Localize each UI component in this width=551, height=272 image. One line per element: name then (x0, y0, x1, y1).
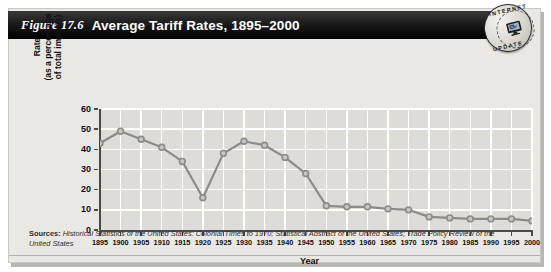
figure-container: Figure 17.6 Average Tariff Rates, 1895–2… (0, 0, 551, 272)
y-axis-label-line-3: of total imports) (53, 0, 64, 107)
data-point-marker (509, 216, 515, 222)
y-tick-mark (94, 209, 98, 211)
y-axis-label-line-1: Rate (32, 0, 43, 107)
sources-prefix: Sources: (29, 229, 61, 238)
data-point-marker (221, 150, 227, 156)
y-axis-label: Rate (as a percentage of total imports) (32, 0, 54, 107)
chart-area: Rate (as a percentage of total imports) … (8, 45, 541, 223)
y-tick-label: 20 (65, 184, 91, 194)
y-tick-label: 30 (65, 164, 91, 174)
y-tick-label: 50 (65, 124, 91, 134)
data-point-marker (529, 218, 532, 224)
y-tick-mark (94, 169, 98, 171)
data-point-marker (282, 155, 288, 161)
sources-text: Historical Statistics of the United Stat… (29, 229, 494, 248)
x-axis-label: Year (300, 256, 319, 266)
figure-title: Average Tariff Rates, 1895–2000 (92, 18, 300, 33)
x-tick-mark (531, 231, 533, 236)
x-axis-label-row: Year (8, 256, 541, 266)
y-tick-mark (94, 189, 98, 191)
data-point-marker (241, 138, 247, 144)
data-point-marker (100, 140, 103, 146)
series-line (100, 131, 532, 221)
data-point-marker (138, 136, 144, 142)
data-point-marker (179, 159, 185, 165)
data-point-marker (488, 216, 494, 222)
y-tick-label: 40 (65, 144, 91, 154)
data-point-marker (365, 204, 371, 210)
data-point-marker (159, 144, 165, 150)
figure-title-bar: Figure 17.6 Average Tariff Rates, 1895–2… (8, 11, 495, 39)
data-point-marker (385, 206, 391, 212)
y-tick-mark (94, 128, 98, 130)
data-point-marker (426, 214, 432, 220)
x-tick-label: 2000 (517, 238, 547, 247)
y-tick-label: 60 (65, 104, 91, 114)
y-axis-label-line-2: (as a percentage (43, 0, 54, 107)
data-point-marker (467, 216, 473, 222)
data-point-marker (323, 203, 329, 209)
data-point-marker (200, 195, 206, 201)
data-point-marker (262, 142, 268, 148)
data-point-marker (303, 171, 309, 177)
data-point-marker (344, 204, 350, 210)
sources-note: Sources: Historical Statistics of the Un… (29, 229, 499, 249)
bottom-rule (9, 255, 540, 256)
y-tick-label: 10 (65, 204, 91, 214)
data-series-line (100, 109, 532, 230)
data-point-marker (406, 207, 412, 213)
data-point-marker (447, 215, 453, 221)
y-tick-mark (94, 149, 98, 151)
x-tick-mark (511, 231, 513, 236)
y-tick-mark (94, 108, 98, 110)
data-point-marker (118, 128, 124, 134)
